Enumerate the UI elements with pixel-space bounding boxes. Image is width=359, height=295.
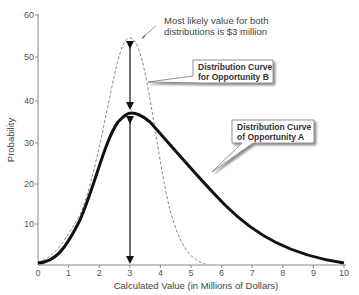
- callout-a-line-1: Distribution Curve: [237, 122, 311, 132]
- y-tick-label: 10: [24, 219, 34, 229]
- curve-opportunity-b: [38, 38, 205, 264]
- y-tick-label: 40: [24, 96, 34, 106]
- x-tick-label: 9: [311, 268, 316, 278]
- x-tick-label: 6: [219, 268, 224, 278]
- x-tick-label: 10: [339, 268, 349, 278]
- y-tick-label: 60: [24, 10, 34, 20]
- x-axis-label: Calculated Value (in Millions of Dollars…: [114, 280, 279, 291]
- y-axis-ticks: 10 20 30 40 50 60: [24, 10, 38, 229]
- x-tick-label: 0: [35, 268, 40, 278]
- x-tick-label: 8: [280, 268, 285, 278]
- y-tick-label: 20: [24, 179, 34, 189]
- y-tick-label: 30: [24, 138, 34, 148]
- x-tick-label: 1: [66, 268, 71, 278]
- x-tick-label: 2: [97, 268, 102, 278]
- note-pointer-arrow-icon: [141, 34, 146, 39]
- callout-a-line-2: of Opportunity A: [237, 132, 304, 142]
- note-line-1: Most likely value for both: [164, 15, 269, 26]
- x-tick-label: 5: [188, 268, 193, 278]
- y-axis-label: Probability: [5, 118, 16, 163]
- x-tick-label: 7: [250, 268, 255, 278]
- y-tick-label: 50: [24, 52, 34, 62]
- x-tick-label: 3: [127, 268, 132, 278]
- note-line-2: distributions is $3 million: [164, 26, 267, 37]
- callout-b-line-2: for Opportunity B: [198, 72, 269, 82]
- x-axis-ticks: 0 1 2 3 4 5 6 7 8 9 10: [35, 265, 349, 278]
- probability-distribution-chart: 10 20 30 40 50 60 0 1 2 3 4 5 6 7 8 9 10…: [0, 0, 359, 295]
- x-tick-label: 4: [158, 268, 163, 278]
- callout-b-line-1: Distribution Curve: [198, 62, 272, 72]
